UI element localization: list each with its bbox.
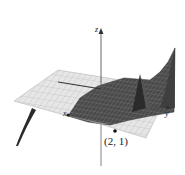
plot-canvas	[0, 0, 185, 175]
z-axis-label: z	[95, 26, 98, 34]
surface-plot-figure: z x y (2, 1)	[0, 0, 185, 175]
point-2-1	[113, 129, 117, 133]
z-arrow-icon	[99, 28, 104, 34]
y-axis-label: y	[165, 110, 169, 118]
x-axis-label: x	[63, 110, 67, 118]
left-surface-edge	[16, 108, 36, 146]
point-label: (2, 1)	[104, 136, 128, 147]
